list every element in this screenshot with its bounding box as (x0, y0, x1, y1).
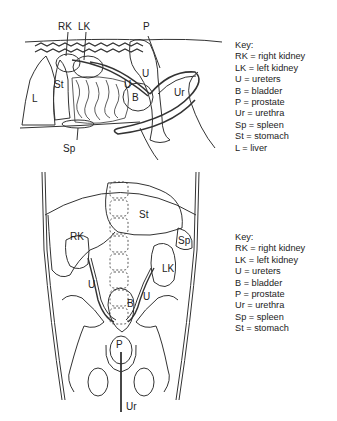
liver-lobes-ventral (48, 215, 115, 277)
label-sp-ventral: Sp (178, 235, 191, 246)
key-item: RK = right kidney (235, 243, 305, 254)
key-lateral: Key: RK = right kidney LK = left kidney … (235, 40, 305, 154)
dorsal-outline (25, 39, 222, 42)
label-lk-lateral: LK (78, 21, 91, 32)
obturator-left (88, 368, 108, 396)
key-item: L = liver (235, 143, 305, 154)
p-leader (148, 36, 160, 68)
bladder-ventral (108, 288, 134, 332)
label-st-ventral: St (139, 209, 149, 220)
label-u2-lateral: U (124, 79, 131, 90)
label-st-lateral: St (54, 79, 64, 90)
spleen-shape (62, 120, 94, 128)
key-item: Sp = spleen (235, 120, 305, 131)
sp-leader (77, 128, 78, 140)
spine (35, 43, 143, 52)
key-item: St = stomach (235, 323, 305, 334)
key-item: Ur = urethra (235, 300, 305, 311)
right-kidney-shape (56, 54, 80, 72)
label-p-ventral: P (116, 339, 123, 350)
label-u1-ventral: U (88, 279, 95, 290)
label-b-lateral: B (132, 92, 139, 103)
spine-dashed (110, 182, 128, 324)
label-u1-lateral: U (142, 68, 149, 79)
intestines (72, 77, 129, 124)
body-wall-left (42, 172, 62, 400)
key-item: B = bladder (235, 86, 305, 97)
label-p-lateral: P (143, 21, 150, 32)
obturator-right (134, 368, 154, 396)
label-rk-lateral: RK (58, 21, 72, 32)
label-u2-ventral: U (143, 291, 150, 302)
key-item: RK = right kidney (235, 51, 305, 62)
key-item: St = stomach (235, 131, 305, 142)
pelvis-right (136, 295, 178, 392)
hindlimb-outline (189, 72, 215, 148)
key-item: P = prostate (235, 97, 305, 108)
ventral-view-diagram (42, 172, 199, 412)
key-item: U = ureters (235, 266, 305, 277)
left-kidney-shape (73, 56, 103, 78)
pelvis-left (62, 295, 104, 392)
diaphragm (45, 193, 196, 216)
label-sp-lateral: Sp (63, 143, 76, 154)
key-ventral: Key: RK = right kidney LK = left kidney … (235, 232, 305, 335)
key-title: Key: (235, 40, 305, 51)
key-item: P = prostate (235, 289, 305, 300)
key-item: LK = left kidney (235, 63, 305, 74)
key-item: LK = left kidney (235, 255, 305, 266)
key-item: Sp = spleen (235, 312, 305, 323)
key-item: B = bladder (235, 278, 305, 289)
liver-shape (22, 56, 55, 125)
label-rk-ventral: RK (70, 231, 84, 242)
key-title: Key: (235, 232, 305, 243)
label-b-ventral: B (127, 298, 134, 309)
key-item: U = ureters (235, 74, 305, 85)
label-ur-ventral: Ur (126, 401, 137, 412)
key-item: Ur = urethra (235, 108, 305, 119)
label-l-lateral: L (32, 93, 38, 104)
label-lk-ventral: LK (162, 263, 175, 274)
stomach-shape (54, 60, 71, 120)
label-ur-lateral: Ur (174, 87, 185, 98)
